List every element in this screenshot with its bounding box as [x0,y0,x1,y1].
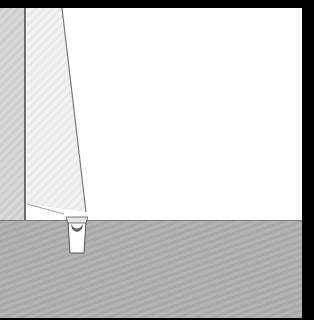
render-viewport [0,8,302,318]
slanted-panel [0,8,302,220]
floor [0,220,302,318]
cup-object [66,215,88,255]
